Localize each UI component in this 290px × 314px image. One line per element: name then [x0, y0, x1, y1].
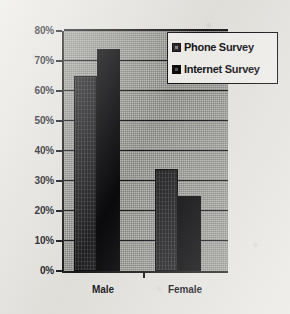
y-axis-tick-label: 10%	[4, 235, 54, 246]
y-axis-tick-mark	[56, 30, 62, 32]
y-axis-tick-mark	[56, 90, 62, 92]
legend-entry-internet-survey: Internet Survey	[172, 58, 277, 80]
legend-label: Phone Survey	[184, 41, 254, 53]
y-axis-tick-label: 80%	[4, 25, 54, 36]
bar-female-internet-survey	[178, 196, 201, 271]
y-axis-tick-label: 60%	[4, 85, 54, 96]
y-axis-tick-mark	[56, 120, 62, 122]
x-axis-category-divider	[143, 271, 145, 278]
y-axis-tick-mark	[56, 210, 62, 212]
legend-label: Internet Survey	[184, 63, 260, 75]
y-axis-tick-mark	[56, 60, 62, 62]
legend-swatch-icon	[172, 43, 181, 52]
x-axis-tick-label-male: Male	[62, 284, 144, 295]
bar-chart-figure: 80% 70% 60% 50% 40% 30% 20% 10% 0% Male …	[0, 0, 290, 314]
plot-top-border	[64, 29, 228, 31]
legend-swatch-icon	[172, 65, 181, 74]
y-axis-tick-label: 30%	[4, 175, 54, 186]
legend-entry-phone-survey: Phone Survey	[172, 36, 277, 58]
y-axis-tick-mark	[56, 240, 62, 242]
chart-legend: Phone Survey Internet Survey	[167, 32, 278, 84]
y-axis-tick-label: 0%	[4, 265, 54, 276]
y-axis-tick-label: 20%	[4, 205, 54, 216]
bar-male-phone-survey	[74, 76, 97, 271]
y-axis-tick-label: 40%	[4, 145, 54, 156]
bar-female-phone-survey	[155, 169, 178, 271]
x-axis-tick-label-female: Female	[144, 284, 226, 295]
y-axis-tick-label: 50%	[4, 115, 54, 126]
y-axis-tick-label: 70%	[4, 55, 54, 66]
y-axis-tick-mark	[56, 180, 62, 182]
bar-male-internet-survey	[97, 49, 120, 271]
y-axis-tick-mark	[56, 270, 62, 272]
y-axis-tick-mark	[56, 150, 62, 152]
